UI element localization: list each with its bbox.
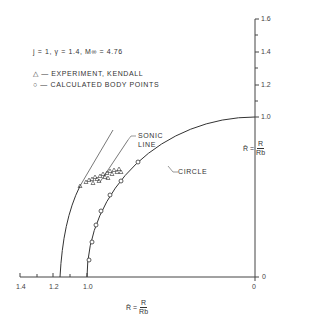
y-tick-1-2: 1.2	[261, 81, 271, 88]
sonic-label-1: SONIC	[138, 132, 163, 139]
chart: j = 1, γ = 1.4, M∞ = 4.76 △ — EXPERIMENT…	[0, 0, 311, 324]
x-axis-var: R̄ =	[126, 304, 137, 311]
x-axis-num: R	[140, 299, 147, 308]
circle-label: CIRCLE	[178, 168, 207, 175]
y-axis-var: R̄ =	[243, 145, 254, 152]
y-tick-1-6: 1.6	[261, 15, 271, 22]
x-axis-den: Rb	[139, 308, 148, 316]
legend-calculated: ○ — CALCULATED BODY POINTS	[33, 81, 159, 88]
y-axis-label: R̄ = RRb	[243, 140, 265, 157]
y-tick-0: 0	[262, 273, 266, 280]
sonic-leader	[128, 136, 136, 140]
x-tick-0: 0	[252, 283, 256, 290]
y-tick-1-4: 1.4	[261, 48, 271, 55]
y-axis-num: R	[257, 140, 264, 149]
shock-curve	[60, 186, 80, 277]
legend-experiment: △ — EXPERIMENT, KENDALL	[33, 70, 143, 78]
params-label: j = 1, γ = 1.4, M∞ = 4.76	[33, 48, 123, 55]
x-axis-label: R̄ = RRb	[126, 299, 148, 316]
y-axis-den: Rb	[256, 149, 265, 157]
x-tick-1-4: 1.4	[16, 283, 26, 290]
sonic-label-2: LINE	[138, 141, 156, 148]
circle-leader	[168, 166, 178, 172]
y-tick-1-0: 1.0	[261, 113, 271, 120]
circle-curve	[87, 117, 255, 277]
x-tick-1-0: 1.0	[83, 283, 93, 290]
x-tick-1-2: 1.2	[49, 283, 59, 290]
